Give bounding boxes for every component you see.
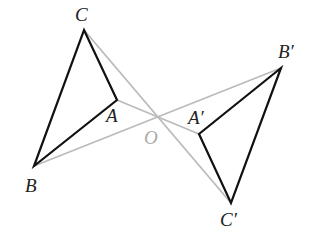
triangle-a-prime-b-prime-c-prime: [199, 68, 281, 203]
label-b-prime: B′: [278, 42, 294, 61]
label-o: O: [144, 128, 158, 147]
label-c: C: [75, 5, 88, 24]
line-b-b-prime: [34, 68, 281, 166]
label-c-prime: C′: [220, 210, 237, 229]
label-a-prime: A′: [188, 108, 204, 127]
label-b: B: [25, 176, 37, 195]
construction-lines: [34, 30, 281, 203]
diagram-canvas: [0, 0, 310, 235]
homothety-diagram: C A B O A′ B′ C′: [0, 0, 310, 235]
label-a: A: [106, 106, 118, 125]
triangle-abc: [34, 30, 117, 166]
